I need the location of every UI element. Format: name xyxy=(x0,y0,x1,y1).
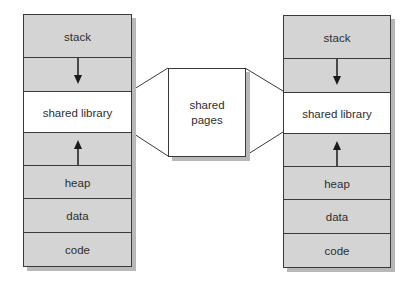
segment-label: shared library xyxy=(43,107,113,119)
connector-left-bottom xyxy=(131,132,168,156)
segment-heap: heap xyxy=(284,166,390,200)
segment-heap-growth xyxy=(24,132,131,166)
segment-heap: heap xyxy=(24,165,131,199)
segment-stack-growth xyxy=(24,57,131,92)
shared-pages-box: shared pages xyxy=(168,68,246,157)
segment-stack: stack xyxy=(284,16,390,59)
arrow-up-icon xyxy=(73,138,83,166)
arrow-up-icon xyxy=(332,139,342,167)
segment-label: data xyxy=(326,211,348,223)
segment-shared-library: shared library xyxy=(24,91,131,133)
segment-label: code xyxy=(325,245,350,257)
segment-label: heap xyxy=(324,178,350,190)
segment-shared-library: shared library xyxy=(284,92,390,134)
process-left-address-space: stack shared library heap data code xyxy=(23,14,132,267)
arrow-down-icon xyxy=(332,59,342,87)
segment-label: shared library xyxy=(302,108,372,120)
segment-data: data xyxy=(24,198,131,233)
connector-right-bottom xyxy=(245,132,283,156)
segment-stack-growth xyxy=(284,58,390,93)
arrow-down-icon xyxy=(73,58,83,86)
segment-label: code xyxy=(65,244,90,256)
segment-label: stack xyxy=(64,31,91,43)
shared-pages-label-line1: shared xyxy=(189,98,224,113)
shared-pages-label-line2: pages xyxy=(189,113,224,128)
segment-code: code xyxy=(284,233,390,267)
segment-data: data xyxy=(284,199,390,234)
segment-stack: stack xyxy=(24,15,131,58)
segment-label: stack xyxy=(324,32,351,44)
segment-label: heap xyxy=(65,177,91,189)
segment-code: code xyxy=(24,232,131,266)
connector-right-top xyxy=(245,68,283,91)
segment-heap-growth xyxy=(284,133,390,167)
process-right-address-space: stack shared library heap data code xyxy=(283,15,391,268)
segment-label: data xyxy=(66,210,88,222)
connector-left-top xyxy=(131,68,168,91)
